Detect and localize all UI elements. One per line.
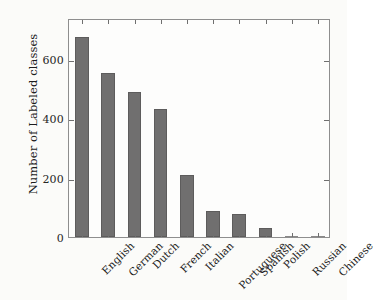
y-tick-mark bbox=[69, 180, 74, 181]
bar-italian bbox=[180, 175, 194, 237]
y-tick-mark-right bbox=[324, 120, 329, 121]
bar-english bbox=[75, 37, 89, 237]
y-tick-label-400: 400 bbox=[42, 114, 64, 125]
y-axis-tick-labels: 0200400600 bbox=[36, 19, 64, 238]
x-tick-mark bbox=[213, 233, 214, 237]
x-tick-mark-top bbox=[161, 20, 162, 24]
x-tick-mark bbox=[187, 233, 188, 237]
bar-dutch bbox=[128, 92, 142, 237]
bars-layer bbox=[69, 20, 329, 237]
x-tick-mark-top bbox=[213, 20, 214, 24]
x-tick-mark bbox=[239, 233, 240, 237]
x-tick-mark-top bbox=[292, 20, 293, 24]
y-tick-mark-right bbox=[324, 61, 329, 62]
plot-area bbox=[68, 19, 330, 238]
x-tick-mark bbox=[82, 233, 83, 237]
x-tick-mark-top bbox=[187, 20, 188, 24]
x-tick-mark-top bbox=[82, 20, 83, 24]
x-tick-mark bbox=[266, 233, 267, 237]
x-axis-tick-labels: EnglishGermanDutchFrenchItalianPortugues… bbox=[68, 240, 330, 300]
y-tick-label-600: 600 bbox=[42, 54, 64, 65]
y-tick-mark bbox=[69, 120, 74, 121]
x-tick-mark-top bbox=[135, 20, 136, 24]
x-tick-mark-top bbox=[239, 20, 240, 24]
bar-german bbox=[101, 73, 115, 237]
x-tick-mark bbox=[318, 233, 319, 237]
x-tick-mark bbox=[292, 233, 293, 237]
x-tick-mark-top bbox=[318, 20, 319, 24]
x-tick-mark bbox=[161, 233, 162, 237]
y-tick-mark-right bbox=[324, 180, 329, 181]
y-tick-mark bbox=[69, 61, 74, 62]
y-tick-label-200: 200 bbox=[42, 173, 64, 184]
x-tick-mark bbox=[108, 233, 109, 237]
x-tick-mark-top bbox=[108, 20, 109, 24]
bar-french bbox=[154, 109, 168, 237]
y-tick-label-0: 0 bbox=[57, 233, 64, 244]
x-tick-mark-top bbox=[266, 20, 267, 24]
x-tick-mark bbox=[135, 233, 136, 237]
